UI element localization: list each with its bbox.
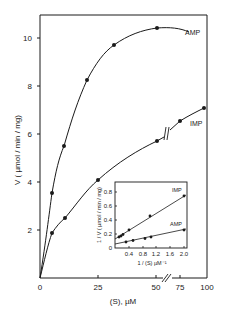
curve-break-icon [164, 127, 169, 140]
inset-x-axis-label: 1 / (S) µM⁻¹ [137, 260, 166, 266]
x-axis-label: (S), µM [110, 297, 137, 306]
inset-y-tick-label: 0.2 [104, 231, 113, 237]
amp-series-label: AMP [185, 29, 201, 36]
x-axis-break-icon [162, 274, 171, 282]
inset-x-tick-label: 2.0 [180, 251, 189, 257]
amp-points [50, 26, 159, 195]
chart-svg: 2 4 6 8 10 0 25 50 75 100 V ( µmol / min… [0, 0, 227, 321]
inset-y-tick-label: 0 [109, 245, 113, 251]
y-tick-label: 8 [28, 82, 33, 91]
y-tick-label: 4 [28, 178, 33, 187]
y-axis-label: V ( µmol / min / mg) [13, 115, 22, 185]
y-tick-label: 10 [23, 34, 32, 43]
inset-y-axis-label: 1 / V ( µmol / min / mg) [96, 187, 102, 243]
x-tick-label: 75 [176, 283, 185, 292]
y-tick-label: 2 [28, 226, 33, 235]
inset-x-tick-label: 1.6 [166, 251, 175, 257]
x-tick-label: 25 [94, 283, 103, 292]
y-tick-label: 6 [28, 130, 33, 139]
inset-y-tick-label: 0.8 [104, 189, 113, 195]
inset-y-tick-label: 0.4 [104, 217, 113, 223]
x-tick-label: 0 [38, 283, 43, 292]
inset-imp-label: IMP [172, 187, 182, 193]
inset-y-tick-label: 0.6 [104, 203, 113, 209]
x-tick-label: 100 [200, 283, 214, 292]
inset-x-tick-label: 0.8 [139, 251, 148, 257]
x-tick-label: 50 [152, 283, 161, 292]
inset-x-tick-label: 1.2 [152, 251, 161, 257]
inset-amp-label: AMP [170, 221, 182, 227]
imp-series-label: IMP [190, 120, 203, 127]
inset-x-tick-label: 0.4 [125, 251, 134, 257]
